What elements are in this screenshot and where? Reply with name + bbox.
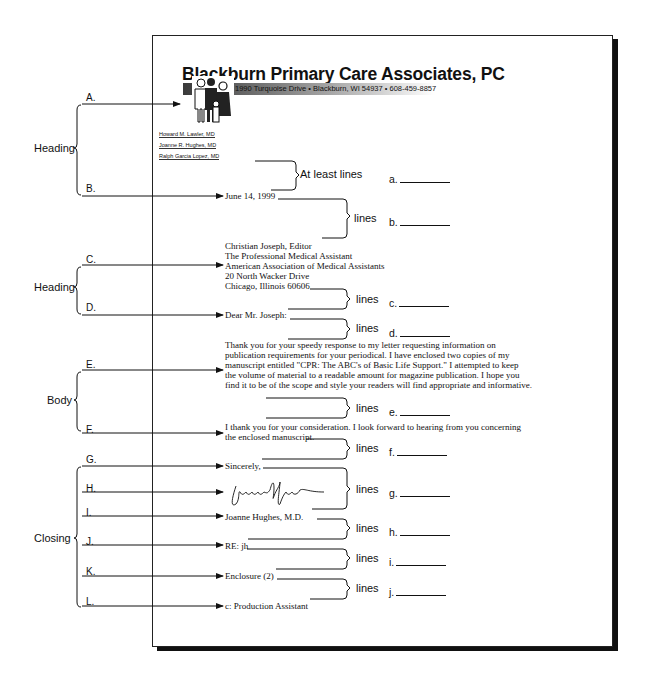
diagram-connectors: [0, 0, 648, 686]
